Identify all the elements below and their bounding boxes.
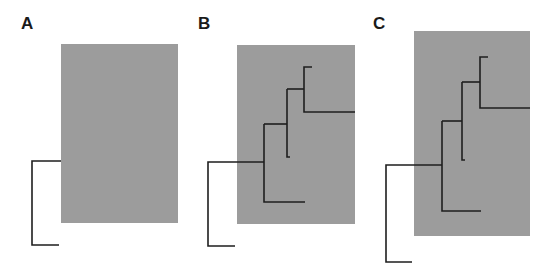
panel-c-label: C — [373, 14, 385, 33]
panel-c: C — [373, 14, 530, 262]
panel-b-box — [237, 45, 355, 224]
panel-a-label: A — [21, 14, 33, 33]
panel-b-label: B — [198, 14, 210, 33]
panel-c-box — [414, 31, 530, 236]
figure-canvas: A B C — [0, 0, 549, 276]
panel-a: A — [21, 14, 178, 245]
panel-a-root-bracket — [32, 161, 61, 245]
panel-a-box — [61, 44, 178, 223]
panel-b: B — [198, 14, 355, 246]
